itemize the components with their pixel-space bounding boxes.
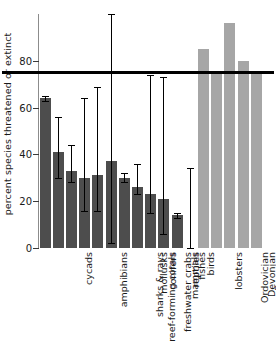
bar-mammals xyxy=(132,187,143,248)
y-tick-mark xyxy=(33,154,39,155)
error-bar-cap-lower xyxy=(81,211,88,212)
error-bar-cap-lower xyxy=(55,178,62,179)
bar-triassic xyxy=(238,61,249,248)
y-tick-mark xyxy=(33,248,39,249)
x-label-permian: Permian xyxy=(273,252,276,291)
error-bar-cap-upper xyxy=(42,96,49,97)
error-bar-cap-lower xyxy=(187,248,194,249)
error-bar-cap-lower xyxy=(94,211,101,212)
error-bar-line xyxy=(111,14,112,243)
x-label-amphibians: amphibians xyxy=(118,252,129,307)
bar-cretaceous xyxy=(251,73,262,249)
y-tick-mark xyxy=(33,201,39,202)
error-bar-line xyxy=(137,164,138,194)
error-bar-line xyxy=(58,117,59,178)
y-tick-label: 0 xyxy=(26,243,32,254)
error-bar-cap-upper xyxy=(81,98,88,99)
error-bar-cap-upper xyxy=(68,145,75,146)
error-bar-cap-upper xyxy=(187,168,194,169)
error-bar-cap-upper xyxy=(55,117,62,118)
y-tick-label: 20 xyxy=(19,196,32,207)
x-label-birds: birds xyxy=(205,252,216,275)
x-label-lobsters: lobsters xyxy=(233,252,244,290)
error-bar-cap-lower xyxy=(160,234,167,235)
error-bar-cap-lower xyxy=(68,182,75,183)
plot-area: 020406080 xyxy=(38,14,274,248)
error-bar-cap-upper xyxy=(147,75,154,76)
y-axis-label: percent species threatened or extinct xyxy=(0,0,16,248)
error-bar-line xyxy=(124,173,125,182)
error-bar-cap-lower xyxy=(147,213,154,214)
chart-container: percent species threatened or extinct 02… xyxy=(0,0,276,346)
y-tick-mark xyxy=(33,61,39,62)
x-label-cycads: cycads xyxy=(82,252,93,285)
y-tick-mark xyxy=(33,108,39,109)
bar-devonian xyxy=(211,73,222,249)
error-bar-line xyxy=(190,168,191,248)
error-bar-cap-upper xyxy=(108,14,115,15)
error-bar-line xyxy=(71,145,72,182)
error-bar-line xyxy=(163,77,164,234)
error-bar-cap-upper xyxy=(134,164,141,165)
bar-permian xyxy=(224,23,235,248)
error-bar-cap-lower xyxy=(121,182,128,183)
error-bar-cap-upper xyxy=(94,87,101,88)
error-bar-line xyxy=(84,98,85,210)
bar-ordovician xyxy=(198,49,209,248)
error-bar-cap-lower xyxy=(108,243,115,244)
bar-cycads xyxy=(40,98,51,248)
error-bar-cap-upper xyxy=(121,173,128,174)
y-tick-label: 40 xyxy=(19,149,32,160)
error-bar-cap-lower xyxy=(174,218,181,219)
error-bar-line xyxy=(150,75,151,213)
x-label-conifers: conifers xyxy=(167,252,178,290)
y-tick-label: 80 xyxy=(19,55,32,66)
error-bar-cap-lower xyxy=(42,101,49,102)
error-bar-cap-lower xyxy=(134,194,141,195)
bar-conifers xyxy=(119,178,130,248)
error-bar-cap-upper xyxy=(174,213,181,214)
y-tick-label: 60 xyxy=(19,102,32,113)
threshold-line xyxy=(2,71,274,74)
error-bar-cap-upper xyxy=(160,77,167,78)
bar-birds xyxy=(172,215,183,248)
error-bar-line xyxy=(97,87,98,211)
